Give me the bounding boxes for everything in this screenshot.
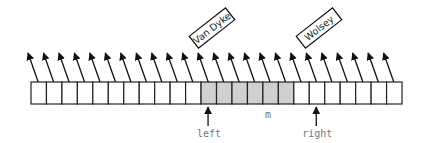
- array-cell: [124, 82, 139, 104]
- array-cell: [247, 82, 262, 104]
- name-label-van-dyke: Van Dyke: [189, 8, 234, 48]
- name-labels: Van DykeWolsey: [189, 8, 341, 48]
- array-cell: [46, 82, 61, 104]
- array-cell: [278, 82, 293, 104]
- array-cell: [340, 82, 355, 104]
- array-cell: [356, 82, 371, 104]
- array-cell: [155, 82, 170, 104]
- array-cells: [31, 82, 402, 104]
- array-diagram: Van DykeWolsey leftright m: [0, 0, 423, 143]
- name-label-wolsey: Wolsey: [296, 8, 341, 48]
- array-cell: [108, 82, 123, 104]
- array-cell: [186, 82, 201, 104]
- array-cell: [217, 82, 232, 104]
- array-cell: [371, 82, 386, 104]
- array-cell: [309, 82, 324, 104]
- array-cell: [77, 82, 92, 104]
- array-cell: [294, 82, 309, 104]
- array-cell: [170, 82, 185, 104]
- array-cell: [201, 82, 216, 104]
- array-cell: [139, 82, 154, 104]
- array-cell: [31, 82, 46, 104]
- array-cell: [232, 82, 247, 104]
- name-label-text: Van Dyke: [191, 10, 233, 46]
- array-cell: [263, 82, 278, 104]
- array-cell: [93, 82, 108, 104]
- pointer-label-right: right: [302, 128, 332, 139]
- pointer-label-left: left: [197, 128, 221, 139]
- array-cell: [62, 82, 77, 104]
- array-cell: [387, 82, 402, 104]
- array-cell: [325, 82, 340, 104]
- middle-index-label: m: [265, 109, 271, 120]
- diagram-svg: Van DykeWolsey leftright m: [0, 0, 423, 143]
